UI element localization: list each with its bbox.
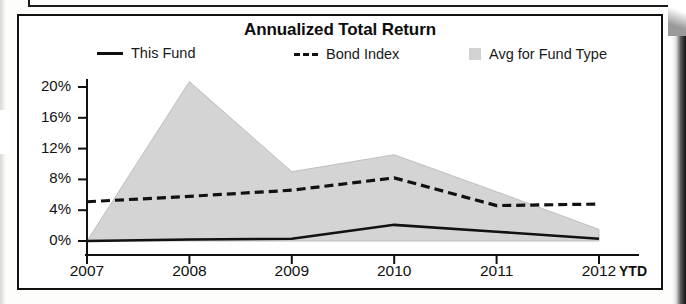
y-tick-label: 0%: [23, 231, 71, 248]
series-area-avg-for-fund-type: [87, 82, 599, 241]
chart-frame: Annualized Total Return This Fund Bond I…: [17, 14, 663, 290]
page-right-edge-shadow: [672, 0, 686, 304]
y-tick-label: 12%: [23, 139, 71, 156]
x-tick-label: 2011: [467, 262, 527, 280]
y-tick-label: 20%: [23, 77, 71, 94]
x-tick-label: 2008: [159, 262, 219, 280]
y-tick-label: 8%: [23, 169, 71, 186]
x-tick-label: 2010: [364, 262, 424, 280]
page-top-right-corner: [668, 0, 686, 36]
y-tick-marks: [78, 87, 87, 241]
scanned-page: Annualized Total Return This Fund Bond I…: [0, 0, 686, 304]
x-tick-label: 2007: [57, 262, 117, 280]
page-left-notch: [0, 110, 10, 154]
page-top-rule: [28, 0, 676, 7]
plot-svg: [19, 16, 665, 292]
x-tick-label: 2009: [262, 262, 322, 280]
y-tick-label: 16%: [23, 108, 71, 125]
y-tick-label: 4%: [23, 200, 71, 217]
plot-area: 20%16%12%8%4%0% 200720082009201020112012…: [19, 16, 665, 292]
x-axis-ytd-label: YTD: [619, 263, 649, 279]
